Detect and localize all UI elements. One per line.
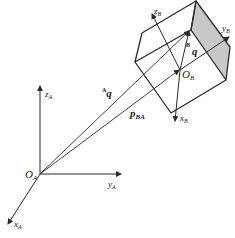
coordinate-frames-diagram: OA zA yA xA Aq pBA OB zB yB xB Bq xyxy=(0,0,235,238)
vector-B-q xyxy=(180,31,189,70)
label-O-A: OA xyxy=(25,168,38,182)
label-z-A: zA xyxy=(44,89,53,100)
label-A-q: Aq xyxy=(102,87,112,99)
label-x-A: xA xyxy=(13,219,22,230)
z-axis-B xyxy=(152,14,180,70)
frame-A-axes xyxy=(8,86,121,224)
label-x-B: xB xyxy=(179,113,188,124)
position-vectors xyxy=(40,31,189,174)
label-B-q: Bq xyxy=(186,42,198,57)
vector-p-BA xyxy=(40,70,179,174)
label-y-A: yA xyxy=(107,179,116,190)
label-p-BA: pBA xyxy=(129,107,145,121)
label-y-B: yB xyxy=(221,23,230,34)
label-z-B: zB xyxy=(153,6,162,17)
label-O-B: OB xyxy=(182,68,195,82)
cube-top-edges xyxy=(135,1,196,62)
vector-A-q xyxy=(40,31,189,174)
